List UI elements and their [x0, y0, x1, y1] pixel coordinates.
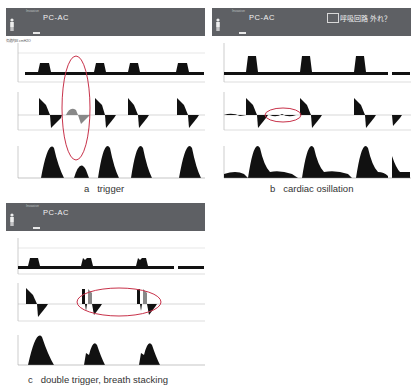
- panel-a: Invasive PC-AC 気道内圧 cmH2O: [6, 8, 205, 183]
- waveform-plots: [6, 203, 205, 368]
- panel-b: Invasive PC-AC 呼吸回路 外れ？: [212, 8, 411, 183]
- caption-c: c double trigger, breath stacking: [28, 374, 168, 385]
- waveform-plots: 気道内圧 cmH2O: [6, 8, 205, 183]
- caption-a: a trigger: [84, 183, 124, 194]
- waveform-plots: [212, 8, 411, 183]
- panel-c: Invasive PC-AC: [6, 203, 205, 368]
- svg-text:気道内圧 cmH2O: 気道内圧 cmH2O: [6, 38, 31, 43]
- caption-b: b cardiac osillation: [270, 183, 353, 194]
